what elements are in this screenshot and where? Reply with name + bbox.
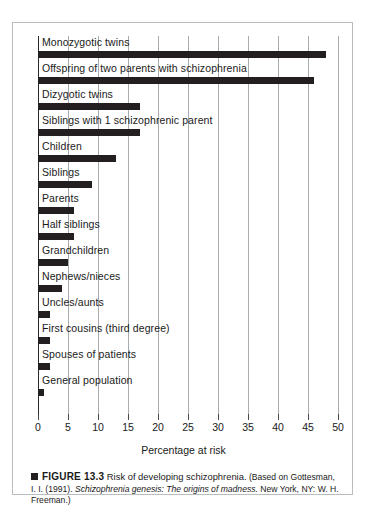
bar <box>38 129 140 136</box>
figure-frame: Monozygotic twinsOffspring of two parent… <box>12 22 353 495</box>
chart-row: Nephews/nieces <box>13 270 354 296</box>
bar-label: Siblings with 1 schizophrenic parent <box>42 114 213 127</box>
bar <box>38 389 44 396</box>
bar-label: First cousins (third degree) <box>42 322 170 335</box>
bar <box>38 207 74 214</box>
caption-source-italic: Schizophrenia genesis: The origins of ma… <box>75 484 258 494</box>
bar <box>38 233 74 240</box>
bar <box>38 155 116 162</box>
chart-row: Dizygotic twins <box>13 88 354 114</box>
chart-row: Siblings with 1 schizophrenic parent <box>13 114 354 140</box>
x-tick-label-15: 15 <box>122 421 134 434</box>
bar-label: Uncles/aunts <box>42 296 104 309</box>
x-tick-5 <box>68 414 69 420</box>
chart-row: Offspring of two parents with schizophre… <box>13 62 354 88</box>
chart-row: Parents <box>13 192 354 218</box>
bar <box>38 259 68 266</box>
x-tick-label-20: 20 <box>152 421 164 434</box>
x-tick-label-45: 45 <box>302 421 314 434</box>
bar-label: Children <box>42 140 82 153</box>
chart-row: Children <box>13 140 354 166</box>
bar-label: Parents <box>42 192 79 205</box>
x-tick-label-30: 30 <box>212 421 224 434</box>
x-tick-label-0: 0 <box>35 421 41 434</box>
bar-label: Nephews/nieces <box>42 270 120 283</box>
bar <box>38 363 50 370</box>
bar <box>38 285 62 292</box>
chart-row: Monozygotic twins <box>13 36 354 62</box>
bar-label: Offspring of two parents with schizophre… <box>42 62 247 75</box>
x-tick-10 <box>98 414 99 420</box>
x-tick-label-50: 50 <box>332 421 344 434</box>
chart-row: Grandchildren <box>13 244 354 270</box>
chart-row: Spouses of patients <box>13 348 354 374</box>
figure-caption: FIGURE 13.3 Risk of developing schizophr… <box>31 471 341 507</box>
chart-bar-rows: Monozygotic twinsOffspring of two parent… <box>13 23 354 423</box>
chart-row: Uncles/aunts <box>13 296 354 322</box>
bar-label: General population <box>42 374 133 387</box>
x-tick-0 <box>38 414 39 420</box>
bar <box>38 77 314 84</box>
x-tick-50 <box>338 414 339 420</box>
chart-row: First cousins (third degree) <box>13 322 354 348</box>
bar <box>38 103 140 110</box>
x-tick-label-35: 35 <box>242 421 254 434</box>
x-tick-label-40: 40 <box>272 421 284 434</box>
x-tick-label-5: 5 <box>65 421 71 434</box>
chart-plot-area: Monozygotic twinsOffspring of two parent… <box>13 23 354 423</box>
caption-title-text: Risk of developing schizophrenia. <box>107 471 247 482</box>
x-tick-35 <box>248 414 249 420</box>
caption-bullet-icon <box>31 473 38 480</box>
x-axis-title: Percentage at risk <box>13 444 354 456</box>
x-tick-label-25: 25 <box>182 421 194 434</box>
chart-row: General population <box>13 374 354 400</box>
bar-label: Siblings <box>42 166 80 179</box>
bar-label: Monozygotic twins <box>42 36 129 49</box>
x-tick-40 <box>278 414 279 420</box>
x-tick-15 <box>128 414 129 420</box>
x-tick-30 <box>218 414 219 420</box>
caption-figure-label: FIGURE 13.3 <box>42 471 104 482</box>
x-tick-25 <box>188 414 189 420</box>
bar <box>38 337 50 344</box>
bar <box>38 181 92 188</box>
chart-row: Half siblings <box>13 218 354 244</box>
bar-label: Dizygotic twins <box>42 88 113 101</box>
x-tick-20 <box>158 414 159 420</box>
bar <box>38 51 326 58</box>
x-tick-label-10: 10 <box>92 421 104 434</box>
bar <box>38 311 50 318</box>
bar-label: Grandchildren <box>42 244 109 257</box>
bar-label: Half siblings <box>42 218 100 231</box>
chart-row: Siblings <box>13 166 354 192</box>
bar-label: Spouses of patients <box>42 348 136 361</box>
x-tick-45 <box>308 414 309 420</box>
